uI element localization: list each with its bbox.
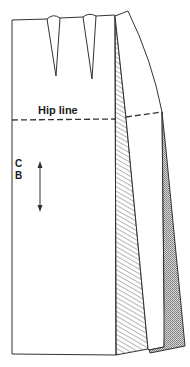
centre-back-label-b: B	[15, 170, 22, 181]
centre-back-label-c: C	[15, 158, 22, 169]
hip-line-label: Hip line	[38, 104, 78, 116]
skirt-pattern-diagram: Hip line C B	[0, 0, 190, 367]
back-panel	[12, 14, 116, 355]
